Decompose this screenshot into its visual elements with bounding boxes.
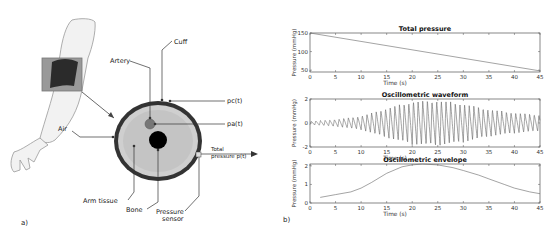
label-cuff: Cuff — [174, 38, 188, 46]
chart-1: Total pressure05101520253035404550100150… — [291, 25, 544, 86]
x-tick-label: 40 — [511, 149, 518, 155]
x-tick-label: 5 — [334, 149, 338, 155]
panel-b-label: b) — [283, 216, 290, 224]
label-artery: Artery — [110, 57, 130, 65]
x-tick-label: 0 — [308, 205, 312, 211]
bone-shape — [149, 131, 167, 149]
x-tick-label: 0 — [308, 74, 312, 80]
y-tick-label: 2 — [305, 96, 309, 102]
label-pa: pa(t) — [227, 120, 243, 128]
x-tick-label: 5 — [334, 74, 338, 80]
chart-title: Oscillometric waveform — [382, 91, 469, 99]
chart-title: Total pressure — [399, 25, 452, 33]
chart-2: Oscillometric waveform051015202530354045… — [291, 91, 544, 161]
label-pc: pc(t) — [227, 97, 242, 105]
x-tick-label: 10 — [358, 74, 365, 80]
x-tick-label: 35 — [485, 205, 492, 211]
x-axis-label: Time (s) — [382, 211, 407, 217]
x-tick-label: 10 — [358, 149, 365, 155]
x-tick-label: 40 — [511, 205, 518, 211]
artery-shape — [145, 119, 155, 129]
y-tick-label: -2 — [303, 144, 308, 150]
y-axis-label: Pressure (mmHg) — [291, 99, 298, 147]
x-tick-label: 30 — [460, 205, 467, 211]
x-tick-label: 35 — [485, 149, 492, 155]
chart-title: Oscillometric envelope — [383, 156, 467, 164]
label-arm-tissue: Arm tissue — [83, 197, 118, 205]
y-axis-label: Pressure (mmHg) — [291, 160, 298, 208]
arm-illustration — [11, 19, 114, 172]
pressure-sensor-shape — [196, 152, 201, 157]
x-tick-label: 30 — [460, 74, 467, 80]
chart-3: Oscillometric envelope051015202530354045… — [291, 156, 544, 217]
y-tick-label: 0 — [305, 120, 309, 126]
x-tick-label: 10 — [358, 205, 365, 211]
plot-area — [310, 164, 540, 203]
x-tick-label: 45 — [537, 74, 544, 80]
panel-a-diagram: Cuff Artery pc(t) pa(t) Air Total pressu… — [11, 19, 258, 227]
label-air: Air — [58, 125, 67, 133]
panel-b-charts: Total pressure05101520253035404550100150… — [291, 25, 544, 217]
x-tick-label: 35 — [485, 74, 492, 80]
x-tick-label: 25 — [434, 205, 441, 211]
label-total-1: Total — [210, 146, 224, 152]
label-sensor-2: sensor — [162, 215, 184, 223]
y-axis-label: Pressure (mmHg) — [291, 29, 298, 77]
x-tick-label: 0 — [308, 149, 312, 155]
panel-a-label: a) — [21, 219, 28, 227]
x-tick-label: 45 — [537, 149, 544, 155]
x-tick-label: 25 — [434, 74, 441, 80]
x-tick-label: 25 — [434, 149, 441, 155]
x-tick-label: 20 — [409, 205, 416, 211]
y-tick-label: 2 — [305, 163, 309, 169]
label-bone: Bone — [126, 206, 143, 214]
x-axis-label: Time (s) — [382, 80, 407, 86]
y-tick-label: 100 — [298, 49, 309, 55]
x-tick-label: 45 — [537, 205, 544, 211]
y-tick-label: 150 — [298, 30, 309, 36]
y-tick-label: 50 — [301, 67, 308, 73]
x-tick-label: 5 — [334, 205, 338, 211]
x-tick-label: 20 — [409, 74, 416, 80]
x-tick-label: 40 — [511, 74, 518, 80]
figure: Cuff Artery pc(t) pa(t) Air Total pressu… — [0, 0, 554, 235]
x-tick-label: 30 — [460, 149, 467, 155]
label-total-2: pressure p(t) — [211, 153, 246, 160]
y-tick-label: 0 — [305, 200, 309, 206]
x-tick-label: 20 — [409, 149, 416, 155]
y-tick-label: 1 — [305, 181, 309, 187]
